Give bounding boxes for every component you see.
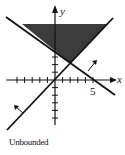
inequality-graph bbox=[0, 0, 125, 155]
y-axis-arrow-icon bbox=[52, 5, 58, 13]
up-right-arrowhead-icon bbox=[92, 60, 97, 65]
figure-caption: Unbounded bbox=[9, 137, 48, 147]
x-tick-label-5: 5 bbox=[90, 86, 96, 97]
x-axis-arrow-icon bbox=[110, 77, 117, 83]
x-axis-label: x bbox=[117, 74, 122, 85]
feasible-region bbox=[22, 24, 108, 63]
y-axis-label: y bbox=[60, 6, 65, 17]
